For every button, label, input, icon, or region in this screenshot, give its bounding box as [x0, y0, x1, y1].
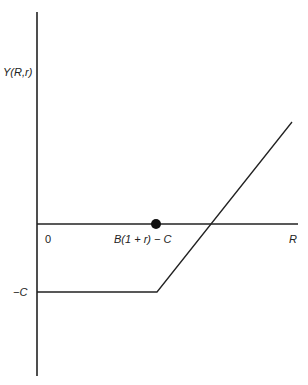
kink-marker	[151, 219, 161, 229]
payoff-line	[37, 122, 292, 292]
chart-canvas: Y(R,r) R 0 B(1 + r) − C −C	[0, 0, 308, 385]
payoff-chart: Y(R,r) R 0 B(1 + r) − C −C	[0, 0, 308, 385]
minus-c-label: −C	[13, 286, 27, 298]
origin-label: 0	[45, 233, 51, 245]
x-axis-label: R	[289, 233, 297, 245]
y-axis-label: Y(R,r)	[3, 66, 33, 78]
kink-label: B(1 + r) − C	[114, 233, 172, 245]
